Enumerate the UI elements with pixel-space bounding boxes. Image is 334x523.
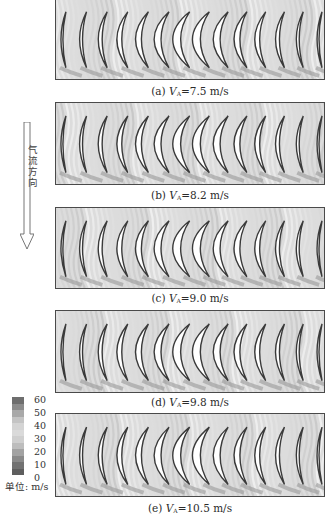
colorbar-tick: 60 bbox=[34, 393, 46, 406]
colorbar-tick: 30 bbox=[34, 432, 46, 445]
colorbar-tick: 20 bbox=[34, 445, 46, 458]
colorbar-tick: 40 bbox=[34, 419, 46, 432]
flow-direction-label: 气流方向 bbox=[25, 145, 39, 189]
colorbar bbox=[12, 397, 24, 475]
velocity-contour-plot bbox=[56, 414, 324, 496]
panel-b bbox=[55, 102, 325, 185]
velocity-contour-plot bbox=[56, 208, 324, 288]
velocity-contour-plot bbox=[56, 0, 324, 79]
panel-d bbox=[55, 310, 325, 393]
velocity-contour-plot bbox=[56, 311, 324, 392]
colorbar-cell bbox=[12, 469, 24, 476]
colorbar-tick-labels: 6050403020100 bbox=[34, 393, 46, 484]
velocity-contour-plot bbox=[56, 103, 324, 184]
colorbar-tick: 50 bbox=[34, 406, 46, 419]
panel-c bbox=[55, 207, 325, 289]
panel-caption-d: (d) VA=9.8 m/s bbox=[55, 396, 325, 411]
panel-caption-a: (a) VA=7.5 m/s bbox=[55, 85, 325, 100]
panel-caption-c: (c) VA=9.0 m/s bbox=[55, 292, 325, 307]
colorbar-unit-label: 单位: m/s bbox=[5, 479, 48, 493]
panel-caption-b: (b) VA=8.2 m/s bbox=[55, 189, 325, 204]
panel-a bbox=[55, 0, 325, 80]
colorbar-tick: 10 bbox=[34, 458, 46, 471]
panel-e bbox=[55, 413, 325, 497]
panel-caption-e: (e) VA=10.5 m/s bbox=[55, 502, 325, 517]
